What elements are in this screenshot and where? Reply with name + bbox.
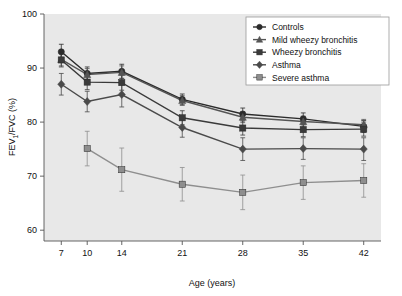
legend-item-label: Controls [272, 22, 304, 32]
data-point-circle [257, 24, 262, 29]
chart-container: 7101421283542 60708090100 Age (years) FE… [0, 0, 402, 296]
data-point-square [257, 50, 262, 55]
x-tick-label: 7 [59, 248, 64, 258]
data-point-square [257, 75, 262, 80]
x-axis-title: Age (years) [189, 278, 236, 288]
x-tick-label: 35 [298, 248, 308, 258]
data-point-square [84, 145, 90, 151]
data-point-square [300, 127, 306, 133]
y-tick-label: 60 [27, 225, 37, 235]
data-point-square [240, 189, 246, 195]
y-tick-label: 100 [22, 9, 37, 19]
data-point-square [179, 181, 185, 187]
legend-item-label: Asthma [272, 60, 301, 70]
data-point-square [361, 177, 367, 183]
legend-item-label: Severe asthma [272, 73, 329, 83]
legend-item-label: Wheezy bronchitis [272, 47, 341, 57]
data-point-square [240, 125, 246, 131]
legend-item-label: Mild wheezy bronchitis [272, 35, 358, 45]
legend: ControlsMild wheezy bronchitisWheezy bro… [246, 17, 389, 85]
y-tick-label: 70 [27, 171, 37, 181]
data-point-square [119, 80, 125, 86]
data-point-square [300, 180, 306, 186]
y-axis-title-post: /FVC (%) [7, 98, 17, 135]
x-tick-label: 21 [177, 248, 187, 258]
data-point-circle [58, 49, 64, 55]
y-tick-label: 90 [27, 63, 37, 73]
fev1-fvc-line-chart: 7101421283542 60708090100 Age (years) FE… [0, 0, 402, 296]
y-tick-label: 80 [27, 117, 37, 127]
x-tick-label: 14 [117, 248, 127, 258]
data-point-square [179, 115, 185, 121]
data-point-square [119, 167, 125, 173]
data-point-square [361, 126, 367, 132]
y-axis-title-pre: FEV [7, 139, 17, 157]
data-point-square [58, 57, 64, 63]
x-tick-label: 10 [82, 248, 92, 258]
x-tick-label: 28 [238, 248, 248, 258]
data-point-square [84, 79, 90, 85]
x-tick-label: 42 [359, 248, 369, 258]
